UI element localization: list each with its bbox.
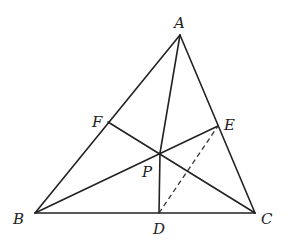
- segment-PD: [159, 153, 160, 213]
- label-point-P: P: [141, 163, 153, 181]
- label-point-A: A: [172, 14, 185, 32]
- segment-CA: [180, 35, 255, 213]
- dashed-segments: [159, 126, 218, 213]
- label-point-E: E: [223, 116, 235, 134]
- label-point-C: C: [261, 210, 273, 228]
- segment-BE: [35, 126, 218, 213]
- segment-AP: [160, 35, 180, 153]
- segment-DE: [159, 126, 218, 213]
- label-point-F: F: [91, 113, 103, 131]
- geometry-diagram: ABCDEFP: [0, 0, 288, 245]
- label-point-B: B: [12, 210, 24, 228]
- point-labels: ABCDEFP: [12, 14, 273, 238]
- label-point-D: D: [152, 220, 165, 238]
- solid-segments: [35, 35, 255, 213]
- segment-AB: [35, 35, 180, 213]
